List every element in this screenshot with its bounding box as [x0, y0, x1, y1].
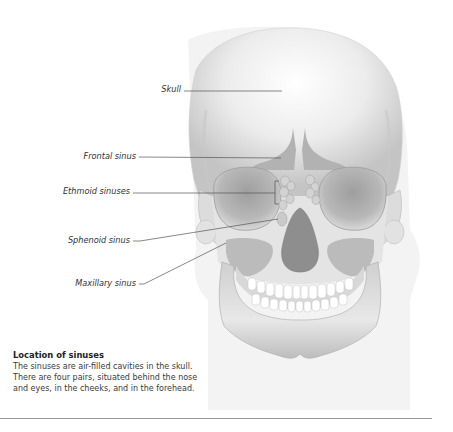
- label-ethmoid-sinuses: Ethmoid sinuses: [40, 186, 130, 196]
- label-frontal-sinus: Frontal sinus: [60, 151, 136, 161]
- sphenoid-sinus-region: [277, 212, 287, 226]
- label-sphenoid-sinus: Sphenoid sinus: [40, 235, 130, 245]
- label-maxillary-sinus: Maxillary sinus: [40, 278, 136, 288]
- caption: Location of sinuses The sinuses are air-…: [13, 350, 213, 394]
- caption-body: The sinuses are air-filled cavities in t…: [13, 362, 213, 394]
- label-skull: Skull: [143, 84, 181, 94]
- caption-title: Location of sinuses: [13, 350, 213, 361]
- bottom-rule: [0, 418, 432, 419]
